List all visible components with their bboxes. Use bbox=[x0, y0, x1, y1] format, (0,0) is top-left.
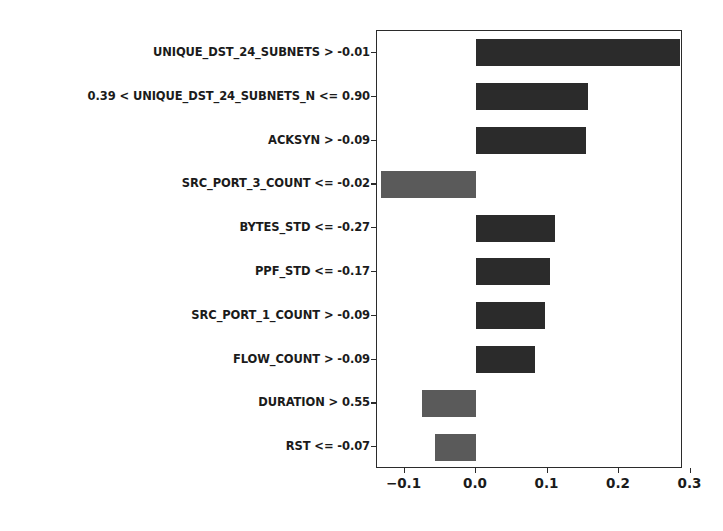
y-tick-label: 0.39 < UNIQUE_DST_24_SUBNETS_N <= 0.90 bbox=[0, 90, 370, 102]
x-tick-mark bbox=[618, 468, 619, 473]
y-tick-mark bbox=[371, 359, 376, 360]
plot-area bbox=[376, 30, 682, 468]
y-tick-label: ACKSYN > -0.09 bbox=[0, 134, 370, 146]
bar bbox=[422, 390, 476, 417]
y-tick-mark bbox=[371, 183, 376, 184]
bar bbox=[476, 302, 545, 329]
y-tick-label: BYTES_STD <= -0.27 bbox=[0, 221, 370, 233]
x-tick-mark bbox=[690, 468, 691, 473]
y-tick-mark bbox=[371, 52, 376, 53]
x-tick-mark bbox=[547, 468, 548, 473]
y-tick-mark bbox=[371, 140, 376, 141]
y-tick-mark bbox=[371, 96, 376, 97]
y-axis-label-column: UNIQUE_DST_24_SUBNETS > -0.010.39 < UNIQ… bbox=[0, 30, 370, 468]
bar bbox=[476, 83, 588, 110]
lime-feature-importance-chart: UNIQUE_DST_24_SUBNETS > -0.010.39 < UNIQ… bbox=[0, 0, 723, 531]
y-tick-label: UNIQUE_DST_24_SUBNETS > -0.01 bbox=[0, 46, 370, 58]
x-tick-label: 0.2 bbox=[606, 475, 630, 491]
x-tick-mark bbox=[404, 468, 405, 473]
y-tick-mark bbox=[371, 402, 376, 403]
y-tick-mark bbox=[371, 227, 376, 228]
y-tick-label: DURATION > 0.55 bbox=[0, 396, 370, 408]
x-tick-label: 0.3 bbox=[678, 475, 702, 491]
x-axis: −0.10.00.10.20.3 bbox=[376, 468, 682, 508]
y-tick-label: PPF_STD <= -0.17 bbox=[0, 265, 370, 277]
y-tick-label: RST <= -0.07 bbox=[0, 440, 370, 452]
bar bbox=[435, 434, 476, 461]
bar bbox=[476, 127, 586, 154]
x-tick-label: 0.1 bbox=[535, 475, 559, 491]
bar bbox=[476, 39, 680, 66]
bar bbox=[381, 171, 476, 198]
y-tick-label: SRC_PORT_3_COUNT <= -0.02 bbox=[0, 177, 370, 189]
x-tick-label: 0.0 bbox=[463, 475, 487, 491]
y-tick-label: SRC_PORT_1_COUNT > -0.09 bbox=[0, 309, 370, 321]
bar bbox=[476, 258, 550, 285]
x-tick-label: −0.1 bbox=[386, 475, 421, 491]
y-tick-mark bbox=[371, 446, 376, 447]
y-tick-mark bbox=[371, 315, 376, 316]
bar bbox=[476, 346, 535, 373]
bar-series bbox=[377, 31, 681, 467]
y-tick-mark bbox=[371, 271, 376, 272]
bar bbox=[476, 215, 555, 242]
y-tick-label: FLOW_COUNT > -0.09 bbox=[0, 353, 370, 365]
x-tick-mark bbox=[475, 468, 476, 473]
